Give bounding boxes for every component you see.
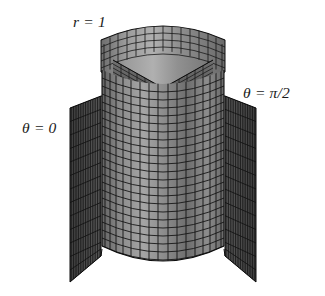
theta-end-label: θ = π/2 (243, 84, 290, 102)
surface-plane-theta-0 (70, 96, 101, 282)
cylindrical-mesh-plot (0, 0, 325, 296)
radius-label: r = 1 (73, 13, 106, 31)
surface-plane-theta-pi-over-2 (225, 96, 256, 282)
figure-root: r = 1 θ = 0 θ = π/2 (0, 0, 325, 296)
surface-cylinder (102, 60, 224, 268)
theta-start-label: θ = 0 (22, 119, 57, 137)
